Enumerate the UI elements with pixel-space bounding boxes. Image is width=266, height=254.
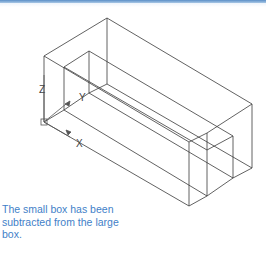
x-axis-label: X xyxy=(76,138,83,149)
notch-top-link xyxy=(207,136,233,150)
subtracted-solid-wireframe xyxy=(44,18,252,206)
z-axis-label: Z xyxy=(39,84,45,95)
outer-right-top-edge xyxy=(207,104,252,133)
inner-bottom-front-edge xyxy=(64,110,207,196)
ucs-icon xyxy=(41,75,71,137)
figure-caption: The small box has been subtracted from t… xyxy=(2,203,132,241)
x-arrow-icon xyxy=(66,130,71,135)
y-axis-label: Y xyxy=(79,92,86,103)
outer-front-top-edge xyxy=(44,56,189,142)
inner-bottom-back-edge xyxy=(89,93,233,178)
x-axis-line xyxy=(44,122,70,137)
front-bottom-link xyxy=(189,196,207,206)
outer-right-bottom-edge xyxy=(233,168,252,178)
outer-top-edges xyxy=(44,18,252,104)
notch-bottom-link xyxy=(207,178,233,196)
y-arrow-icon xyxy=(65,101,70,106)
outer-back-bottom-edge xyxy=(107,84,252,168)
inner-top-left-edge xyxy=(64,51,89,67)
inner-top-edge xyxy=(64,67,207,150)
